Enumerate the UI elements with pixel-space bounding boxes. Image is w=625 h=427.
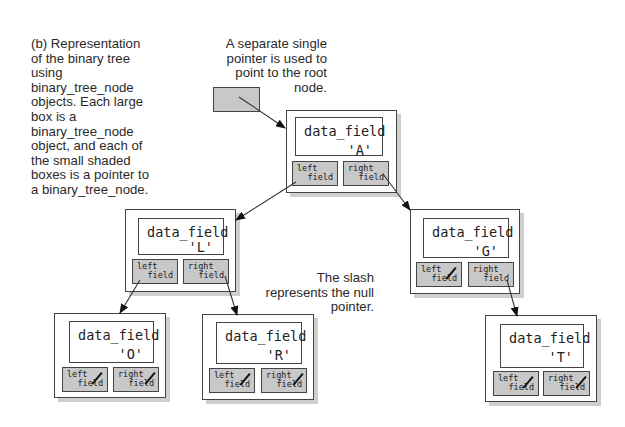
binary-tree-diagram: (b) Representation of the binary tree us… (0, 0, 625, 427)
l-left-arrow (120, 280, 140, 313)
root-arrow (239, 97, 285, 128)
l-right-arrow (225, 276, 237, 315)
pointer-arrows (0, 0, 625, 427)
g-right-arrow (507, 280, 517, 316)
a-right-arrow (383, 174, 410, 210)
a-left-arrow (236, 182, 296, 220)
